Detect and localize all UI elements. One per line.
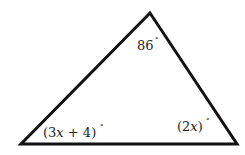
degree-symbol: ° xyxy=(155,36,159,44)
angle-bottom-right-expression: (2x) xyxy=(177,119,203,134)
angle-bottom-left-expression: (3x + 4) xyxy=(43,125,96,140)
angle-label-bottom-left: (3x + 4) ° xyxy=(43,123,104,140)
angle-label-top: 86 ° xyxy=(137,36,159,53)
angle-top-value: 86 xyxy=(137,38,154,53)
angle-label-bottom-right: (2x) ° xyxy=(177,117,210,134)
triangle-diagram: 86 ° (3x + 4) ° (2x) ° xyxy=(0,0,245,155)
degree-symbol: ° xyxy=(206,117,210,125)
degree-symbol: ° xyxy=(100,123,104,131)
